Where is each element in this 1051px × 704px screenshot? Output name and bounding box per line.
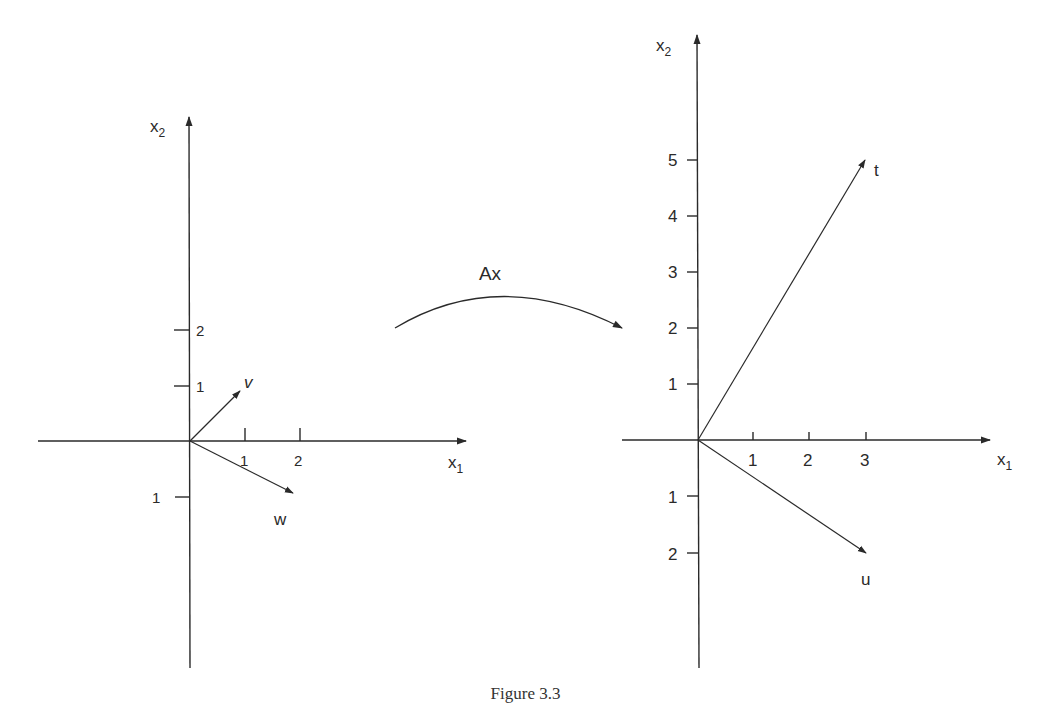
left-y-tick-label-neg1: 1 <box>152 489 160 506</box>
left-y-axis-label: x2 <box>150 117 166 140</box>
vector-w-label: w <box>273 510 287 529</box>
right-y-tick-label-4: 4 <box>668 207 677 226</box>
transform-arrow: Ax <box>395 263 622 328</box>
left-y-tick-label-1: 1 <box>196 378 204 395</box>
right-y-tick-label-2: 2 <box>668 319 677 338</box>
transform-label: Ax <box>479 263 502 284</box>
right-y-tick-label-5: 5 <box>668 151 677 170</box>
right-plot <box>622 35 990 668</box>
vector-t <box>698 160 865 440</box>
right-y-axis-label: x2 <box>656 36 672 59</box>
left-y-tick-label-2: 2 <box>196 322 204 339</box>
right-x-tick-label-2: 2 <box>803 451 812 470</box>
curved-arrow-icon <box>395 297 622 329</box>
left-x-axis-label: x1 <box>448 453 464 476</box>
right-y-tick-label-1: 1 <box>668 375 677 394</box>
right-y-tick-label-3: 3 <box>668 263 677 282</box>
vector-v-label: v <box>244 373 254 392</box>
left-x-tick-label-2: 2 <box>294 452 302 469</box>
right-x-axis-label: x1 <box>997 450 1013 473</box>
right-plot-labels: x2 x1 1 2 3 5 4 3 2 1 1 2 t u <box>656 36 1013 589</box>
left-x-tick-label-1: 1 <box>240 452 248 469</box>
left-plot <box>38 117 466 668</box>
vector-u <box>698 440 866 553</box>
left-plot-labels: x2 x1 1 2 2 1 1 v w <box>150 117 464 529</box>
right-y-tick-label-neg2: 2 <box>668 545 677 564</box>
vector-u-label: u <box>861 570 870 589</box>
vector-t-label: t <box>874 161 879 180</box>
vector-v <box>190 391 240 441</box>
right-x-tick-label-3: 3 <box>860 451 869 470</box>
figure-caption: Figure 3.3 <box>0 684 1051 704</box>
right-x-tick-label-1: 1 <box>748 451 757 470</box>
right-y-axis <box>697 35 699 668</box>
right-y-tick-label-neg1: 1 <box>668 488 677 507</box>
left-y-axis <box>189 117 190 668</box>
